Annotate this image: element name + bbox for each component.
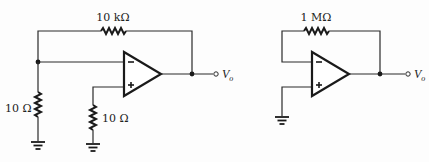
- left-feedback-resistor: 10 kΩ: [96, 11, 129, 34]
- left-feedback-path: [38, 31, 192, 74]
- left-opamp: [124, 52, 161, 96]
- right-opamp: [312, 52, 349, 96]
- circuit-diagram-canvas: 10 kΩ 10 Ω 10 Ω: [0, 0, 429, 162]
- left-ground-resistor: 10 Ω: [5, 62, 41, 141]
- right-output-node: [378, 72, 383, 77]
- left-output: Vo: [161, 67, 233, 83]
- right-output: Vo: [349, 67, 425, 83]
- right-circuit: 1 MΩ Vo: [275, 11, 425, 124]
- left-circuit: 10 kΩ 10 Ω 10 Ω: [5, 11, 233, 151]
- left-output-label: Vo: [222, 67, 233, 83]
- left-output-terminal: [214, 72, 218, 76]
- right-output-terminal: [406, 72, 410, 76]
- left-feedback-resistor-label: 10 kΩ: [96, 11, 129, 24]
- left-noninverting-resistor: 10 Ω: [90, 87, 129, 143]
- circuit-diagram: 10 kΩ 10 Ω 10 Ω: [0, 0, 429, 162]
- ground-icon: [275, 117, 289, 124]
- ground-icon: [86, 144, 100, 151]
- right-noninverting-input-wire: [282, 87, 312, 116]
- left-ground-resistor-label: 10 Ω: [5, 102, 32, 115]
- right-feedback-resistor-label: 1 MΩ: [301, 11, 332, 24]
- left-noninverting-resistor-label: 10 Ω: [102, 112, 129, 125]
- left-output-node: [190, 72, 195, 77]
- ground-icon: [31, 142, 45, 149]
- right-feedback-resistor: 1 MΩ: [301, 11, 332, 34]
- right-output-label: Vo: [414, 67, 425, 83]
